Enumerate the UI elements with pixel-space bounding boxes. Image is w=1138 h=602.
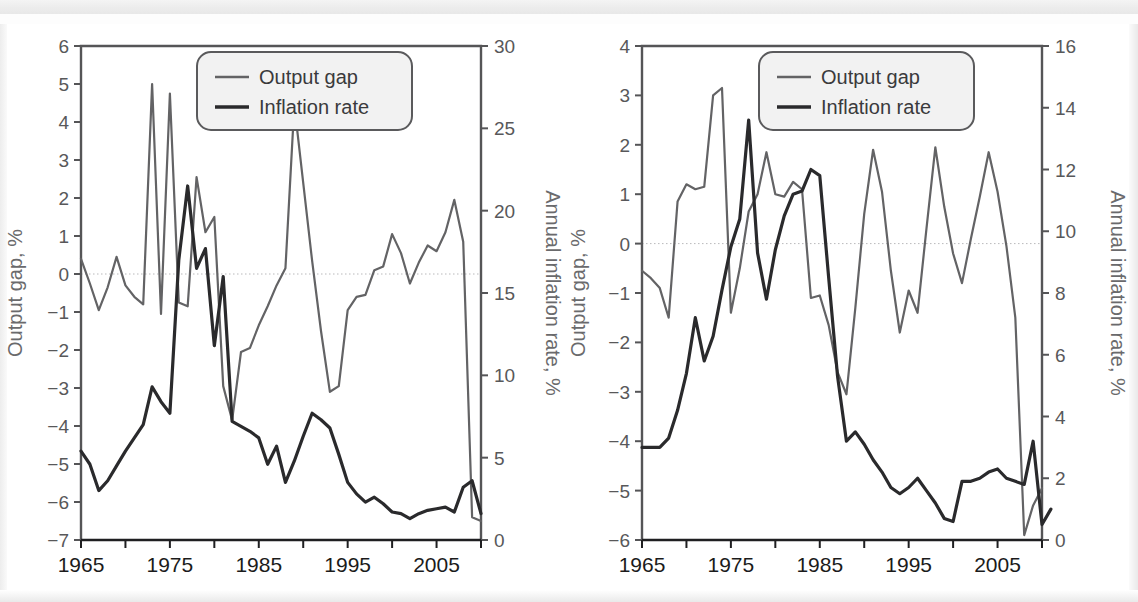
chart-legend: Output gapInflation rate — [759, 52, 974, 130]
y-axis-tick-label: 3 — [619, 85, 630, 106]
y2-axis-tick-label: 15 — [494, 283, 515, 304]
y-axis-tick-label: −4 — [608, 431, 630, 452]
x-axis-tick-label: 1965 — [58, 553, 105, 576]
y2-axis-tick-label: 8 — [1055, 283, 1066, 304]
x-axis-tick-label: 1965 — [619, 553, 666, 576]
x-axis-tick-label: 1995 — [885, 553, 932, 576]
y2-axis-tick-label: 16 — [1055, 36, 1076, 57]
y-axis-tick-label: 1 — [619, 184, 630, 205]
y-axis-tick-label: −1 — [47, 302, 69, 323]
y-axis-tick-label: −7 — [47, 530, 69, 551]
chart-panel-left: −7−6−5−4−3−2−101234560510152025301965197… — [0, 24, 569, 590]
x-axis-tick-label: 2005 — [974, 553, 1021, 576]
y-axis-tick-label: 3 — [58, 150, 69, 171]
y-axis-tick-label: −1 — [608, 283, 630, 304]
legend-label-output-gap: Output gap — [821, 66, 920, 88]
y2-axis-tick-label: 30 — [494, 36, 515, 57]
y2-axis-tick-label: 5 — [494, 448, 505, 469]
y2-axis-tick-label: 6 — [1055, 345, 1066, 366]
y-axis-tick-label: 2 — [619, 135, 630, 156]
y-axis-tick-label: −3 — [608, 382, 630, 403]
x-axis-tick-label: 1985 — [235, 553, 282, 576]
y-axis-tick-label: −3 — [47, 378, 69, 399]
x-axis-tick-label: 1985 — [796, 553, 843, 576]
chart-panel-right: −6−5−4−3−2−10123402468101214161965197519… — [569, 24, 1138, 590]
y2-axis-tick-label: 12 — [1055, 160, 1076, 181]
y-axis-tick-label: −6 — [47, 492, 69, 513]
x-axis-tick-label: 1975 — [147, 553, 194, 576]
y2-axis-tick-label: 2 — [1055, 468, 1066, 489]
y-axis-tick-label: 2 — [58, 188, 69, 209]
y2-axis-tick-label: 4 — [1055, 407, 1066, 428]
chart-svg-right: −6−5−4−3−2−10123402468101214161965197519… — [569, 24, 1138, 590]
legend-label-output-gap: Output gap — [259, 66, 358, 88]
y-axis-tick-label: 4 — [619, 36, 630, 57]
chart-legend: Output gapInflation rate — [197, 52, 412, 130]
scan-top-band — [0, 0, 1138, 14]
y2-axis-tick-label: 10 — [494, 365, 515, 386]
y2-axis-title: Annual inflation rate, % — [542, 190, 564, 396]
output-gap-line — [81, 84, 481, 521]
y-axis-tick-label: −2 — [608, 332, 630, 353]
y2-axis-tick-label: 20 — [494, 201, 515, 222]
y-axis-tick-label: −2 — [47, 340, 69, 361]
y2-axis-tick-label: 0 — [494, 530, 505, 551]
y-axis-title: Output gap, % — [4, 229, 26, 357]
y-axis-tick-label: 6 — [58, 36, 69, 57]
y-axis-tick-label: 5 — [58, 74, 69, 95]
x-axis-tick-label: 1975 — [708, 553, 755, 576]
legend-box — [197, 52, 412, 130]
y-axis-tick-label: 4 — [58, 112, 69, 133]
y2-axis-tick-label: 25 — [494, 118, 515, 139]
y-axis-tick-label: 0 — [58, 264, 69, 285]
y2-axis-tick-label: 0 — [1055, 530, 1066, 551]
legend-label-inflation-rate: Inflation rate — [259, 96, 369, 118]
y-axis-tick-label: −5 — [608, 481, 630, 502]
y-axis-tick-label: −5 — [47, 454, 69, 475]
y-axis-tick-label: 1 — [58, 226, 69, 247]
y2-axis-title: Annual inflation rate, % — [1107, 190, 1129, 396]
x-axis-tick-label: 2005 — [413, 553, 460, 576]
chart-svg-left: −7−6−5−4−3−2−101234560510152025301965197… — [0, 24, 569, 590]
y2-axis-tick-label: 14 — [1055, 98, 1077, 119]
y2-axis-tick-label: 10 — [1055, 221, 1076, 242]
y-axis-tick-label: 0 — [619, 234, 630, 255]
y-axis-title: Output gap, % — [569, 229, 589, 357]
y-axis-tick-label: −4 — [47, 416, 69, 437]
inflation-rate-line — [81, 186, 481, 519]
y-axis-tick-label: −6 — [608, 530, 630, 551]
x-axis-tick-label: 1995 — [324, 553, 371, 576]
scan-bottom-band — [0, 590, 1138, 602]
legend-label-inflation-rate: Inflation rate — [821, 96, 931, 118]
inflation-rate-line — [642, 120, 1051, 524]
output-gap-line — [642, 88, 1042, 535]
legend-box — [759, 52, 974, 130]
scan-top-band-inner — [0, 14, 1138, 24]
